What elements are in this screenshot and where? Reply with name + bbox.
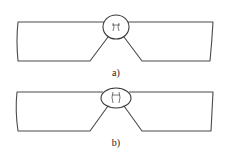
panel-b-left-plate — [16, 92, 108, 131]
panel-a-joint — [17, 15, 213, 61]
panel-b-right-plate — [124, 92, 213, 131]
panel-b-weld-nugget — [101, 88, 131, 108]
panel-b-joint — [16, 88, 213, 131]
panel-a-weld-nugget — [103, 15, 129, 39]
weld-joint-diagram — [0, 0, 230, 158]
panel-b-caption: b) — [112, 137, 120, 148]
panel-a-caption: a) — [112, 67, 120, 78]
panel-a-left-plate — [17, 22, 108, 61]
panel-a-right-plate — [124, 22, 213, 61]
